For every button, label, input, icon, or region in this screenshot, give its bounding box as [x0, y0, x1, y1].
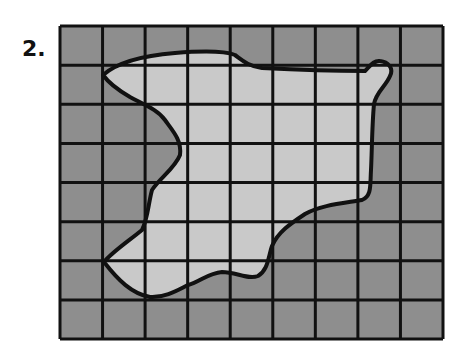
grid-figure	[0, 0, 468, 346]
